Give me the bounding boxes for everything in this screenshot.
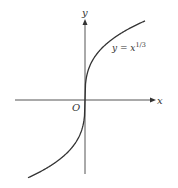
x-axis-label: x	[157, 95, 163, 106]
origin-label: O	[72, 102, 80, 113]
function-label-exponent: 1/3	[135, 41, 145, 49]
cube-root-graph: y x O y = x1/3	[0, 0, 178, 188]
x-axis-arrow-icon	[150, 98, 156, 103]
function-label-main: y = x	[111, 43, 135, 53]
y-axis-label: y	[81, 7, 88, 18]
y-axis-arrow-icon	[83, 19, 88, 25]
function-label: y = x1/3	[111, 41, 146, 53]
